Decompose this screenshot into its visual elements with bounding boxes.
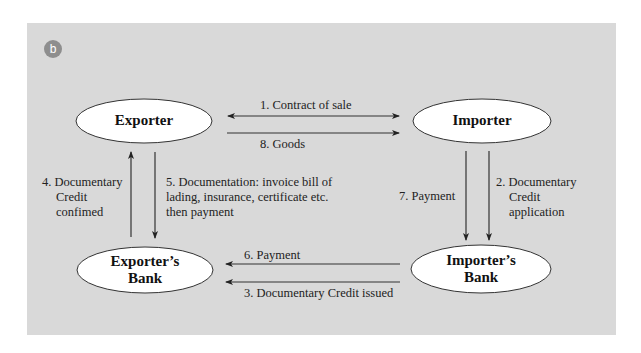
label-payment-banks: 6. Payment [244,248,300,263]
label-importers-bank: Importer’s Bank [421,252,541,286]
label-dc-application-line2: Credit [496,190,577,205]
label-documentation: 5. Documentation: invoice bill of lading… [166,175,332,220]
label-dc-confirmed-line2: Credit [42,190,123,205]
label-importers-bank-line2: Bank [421,269,541,286]
label-dc-issued: 3. Documentary Credit issued [244,286,393,301]
label-dc-application-line1: 2. Documentary [496,175,577,190]
label-exporters-bank-line1: Exporter’s [85,253,205,270]
label-goods: 8. Goods [260,137,305,152]
label-exporters-bank-line2: Bank [85,270,205,287]
label-payment-importer: 7. Payment [399,189,455,204]
label-documentation-line2: lading, insurance, certificate etc. [166,190,332,205]
label-exporter: Exporter [84,112,204,129]
label-dc-confirmed-line3: confimed [42,205,123,220]
label-documentation-line1: 5. Documentation: invoice bill of [166,175,332,190]
label-importers-bank-line1: Importer’s [421,252,541,269]
label-exporters-bank: Exporter’s Bank [85,253,205,287]
label-dc-confirmed-line1: 4. Documentary [42,175,123,190]
label-dc-application-line3: application [496,205,577,220]
label-documentation-line3: then payment [166,205,332,220]
label-dc-application: 2. Documentary Credit application [496,175,577,220]
label-dc-confirmed: 4. Documentary Credit confimed [42,175,123,220]
label-contract-of-sale: 1. Contract of sale [260,98,352,113]
label-importer: Importer [422,112,542,129]
